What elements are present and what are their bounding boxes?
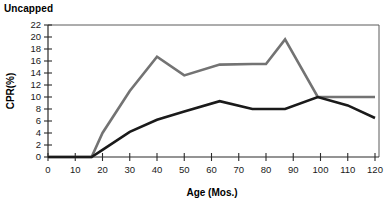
x-tick-label: 0 [45, 164, 50, 175]
x-tick-label: 50 [179, 164, 190, 175]
x-axis-title: Age (Mos.) [186, 187, 237, 198]
y-tick-label: 6 [36, 115, 41, 126]
y-tick-label: 14 [30, 67, 41, 78]
x-tick-label: 80 [261, 164, 272, 175]
x-tick-label: 20 [97, 164, 108, 175]
x-tick-label: 40 [152, 164, 163, 175]
y-tick-label: 4 [36, 127, 41, 138]
y-tick-label: 22 [30, 19, 41, 30]
x-axis-tick-labels: 0102030405060708090100110120 [45, 164, 383, 175]
data-series-group [48, 39, 375, 157]
plot-frame [48, 25, 379, 157]
y-tick-label: 20 [30, 31, 41, 42]
y-tick-label: 2 [36, 139, 41, 150]
x-tick-label: 60 [206, 164, 217, 175]
x-tick-label: 100 [313, 164, 329, 175]
y-tick-label: 16 [30, 55, 41, 66]
y-tick-label: 0 [36, 151, 41, 162]
y-tick-label: 8 [36, 103, 41, 114]
y-tick-label: 10 [30, 91, 41, 102]
y-axis-tick-labels: 0246810121416182022 [30, 19, 41, 162]
x-tick-label: 10 [70, 164, 81, 175]
y-tick-label: 12 [30, 79, 41, 90]
x-tick-label: 120 [367, 164, 383, 175]
x-tick-label: 110 [340, 164, 355, 175]
x-tick-label: 30 [124, 164, 135, 175]
x-tick-label: 70 [233, 164, 244, 175]
x-tick-label: 90 [288, 164, 299, 175]
y-tick-label: 18 [30, 43, 41, 54]
chart-plot-area: 0246810121416182022 01020304050607080901… [0, 0, 392, 201]
y-axis-title: CPR(%) [5, 73, 16, 110]
chart-figure: Uncapped 0246810121416182022 01020304050… [0, 0, 392, 201]
